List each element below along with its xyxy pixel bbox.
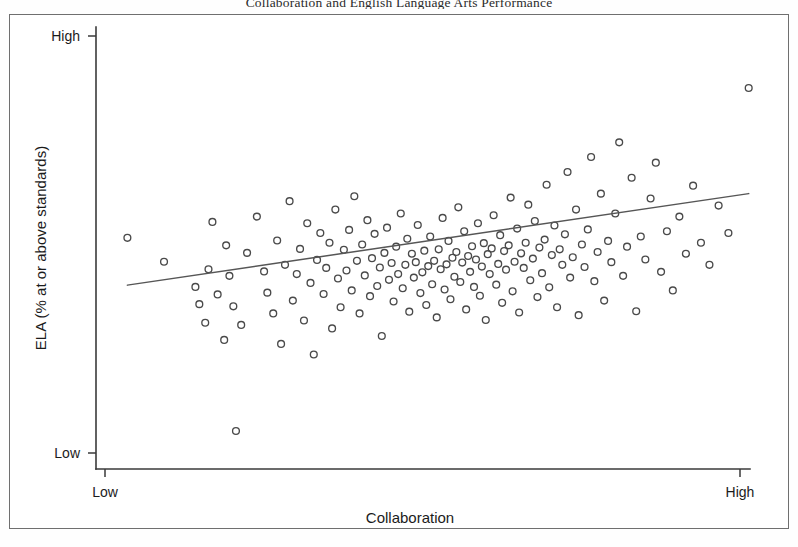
- scatter-point: [698, 239, 705, 246]
- scatter-point: [482, 317, 489, 324]
- scatter-point: [404, 235, 411, 242]
- scatter-point: [505, 242, 512, 249]
- scatter-point: [226, 272, 233, 279]
- scatter-point: [367, 293, 374, 300]
- scatter-point: [459, 259, 466, 266]
- scatter-point: [652, 159, 659, 166]
- scatter-point: [223, 242, 230, 249]
- scatter-point: [624, 243, 631, 250]
- scatter-point: [520, 264, 527, 271]
- scatter-point: [601, 297, 608, 304]
- scatter-point: [575, 312, 582, 319]
- scatter-point: [297, 245, 304, 252]
- scatter-point: [374, 283, 381, 290]
- scatter-point: [335, 275, 342, 282]
- scatter-point: [264, 289, 271, 296]
- scatter-point: [376, 264, 383, 271]
- scatter-point: [209, 219, 216, 226]
- scatter-point: [457, 279, 464, 286]
- scatter-point: [354, 257, 361, 264]
- y-axis-title: ELA (% at or above standards): [32, 146, 49, 350]
- scatter-point: [429, 281, 436, 288]
- scatter-point: [499, 299, 506, 306]
- scatter-point: [301, 317, 308, 324]
- scatter-point: [443, 261, 450, 268]
- scatter-point: [289, 297, 296, 304]
- scatter-point: [278, 341, 285, 348]
- scatter-point: [371, 230, 378, 237]
- scatter-point: [202, 319, 209, 326]
- scatter-point: [399, 285, 406, 292]
- scatter-point: [402, 261, 409, 268]
- scatter-point: [567, 274, 574, 281]
- scatter-point: [486, 271, 493, 278]
- scatter-point: [488, 245, 495, 252]
- scatter-point: [503, 266, 510, 273]
- scatter-point: [431, 257, 438, 264]
- scatter-point: [564, 169, 571, 176]
- scatter-point: [628, 174, 635, 181]
- scatter-point: [351, 193, 358, 200]
- scatter-point: [461, 228, 468, 235]
- scatter-point: [473, 256, 480, 263]
- scatter-point: [435, 246, 442, 253]
- y-axis-tick-label-low: Low: [54, 445, 81, 461]
- scatter-point: [527, 277, 534, 284]
- scatter-point: [395, 271, 402, 278]
- scatter-point: [221, 337, 228, 344]
- scatter-point: [511, 258, 518, 265]
- scatter-point: [581, 264, 588, 271]
- scatter-point: [516, 309, 523, 316]
- scatter-point: [469, 243, 476, 250]
- scatter-point: [548, 252, 555, 259]
- scatter-point: [439, 215, 446, 222]
- scatter-point: [543, 181, 550, 188]
- scatter-point: [562, 231, 569, 238]
- scatter-point: [361, 272, 368, 279]
- scatter-point: [343, 267, 350, 274]
- scatter-point: [683, 250, 690, 257]
- scatter-point: [270, 310, 277, 317]
- scatter-point: [274, 237, 281, 244]
- scatter-point: [384, 224, 391, 231]
- scatter-point: [451, 273, 458, 280]
- scatter-point: [453, 249, 460, 256]
- scatter-plot: High Low Low High Collaboration ELA (% a…: [10, 15, 788, 528]
- scatter-point: [323, 264, 330, 271]
- scatter-point: [658, 268, 665, 275]
- scatter-point: [597, 190, 604, 197]
- scatter-point: [293, 271, 300, 278]
- scatter-point: [579, 241, 586, 248]
- scatter-point: [386, 276, 393, 283]
- scatter-point: [286, 198, 293, 205]
- scatter-point: [307, 280, 314, 287]
- scatter-point: [427, 233, 434, 240]
- scatter-point: [381, 249, 388, 256]
- scatter-point: [569, 254, 576, 261]
- scatter-point: [676, 213, 683, 220]
- scatter-point: [620, 272, 627, 279]
- scatter-point: [332, 206, 339, 213]
- scatter-point: [497, 232, 504, 239]
- scatter-point: [414, 222, 421, 229]
- scatter-point: [584, 226, 591, 233]
- scatter-point: [490, 212, 497, 219]
- figure-page: Collaboration and English Language Arts …: [0, 0, 798, 547]
- scatter-point: [554, 304, 561, 311]
- scatter-point: [633, 308, 640, 315]
- scatter-point: [478, 263, 485, 270]
- scatter-point: [261, 268, 268, 275]
- scatter-point: [690, 182, 697, 189]
- scatter-point: [369, 255, 376, 262]
- scatter-point: [320, 291, 327, 298]
- scatter-point: [230, 303, 237, 310]
- scatter-point: [588, 154, 595, 161]
- scatter-point: [378, 333, 385, 340]
- scatter-point: [388, 260, 395, 267]
- scatter-point: [346, 226, 353, 233]
- scatter-point: [337, 304, 344, 311]
- scatter-point: [326, 239, 333, 246]
- scatter-point: [493, 281, 500, 288]
- scatter-point: [359, 241, 366, 248]
- scatter-point: [310, 351, 317, 358]
